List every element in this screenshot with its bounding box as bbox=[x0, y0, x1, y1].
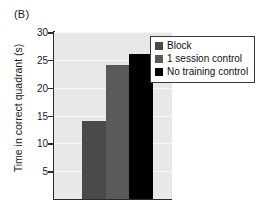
legend: Block1 session controlNo training contro… bbox=[150, 36, 255, 83]
gridline bbox=[54, 32, 172, 33]
y-axis-tick-mark bbox=[48, 171, 54, 173]
y-axis-tick-mark bbox=[48, 60, 54, 62]
y-axis-tick-label: 15 bbox=[8, 110, 48, 121]
y-axis-tick-mark bbox=[48, 88, 54, 90]
bar bbox=[106, 65, 130, 199]
y-axis-tick-label: 25 bbox=[8, 54, 48, 65]
y-axis-tick-label: 5 bbox=[8, 166, 48, 177]
y-axis-tick-labels: 51015202530 bbox=[6, 0, 48, 213]
legend-item: 1 session control bbox=[155, 53, 250, 65]
bar bbox=[129, 54, 153, 199]
y-axis-tick-label: 20 bbox=[8, 82, 48, 93]
bar bbox=[82, 121, 106, 199]
y-axis-tick-label: 10 bbox=[8, 138, 48, 149]
figure-panel-b: (B) Time in correct quadrant (s) 5101520… bbox=[0, 0, 266, 213]
y-axis-tick-mark bbox=[48, 32, 54, 34]
legend-swatch-icon bbox=[155, 42, 163, 50]
legend-item: Block bbox=[155, 40, 250, 52]
legend-swatch-icon bbox=[155, 55, 163, 63]
legend-label: 1 session control bbox=[167, 53, 242, 65]
legend-label: No training control bbox=[167, 66, 248, 78]
y-axis-tick-mark bbox=[48, 116, 54, 118]
legend-swatch-icon bbox=[155, 68, 163, 76]
legend-item: No training control bbox=[155, 66, 250, 78]
y-axis-tick-mark bbox=[48, 143, 54, 145]
legend-label: Block bbox=[167, 40, 191, 52]
y-axis-tick-label: 30 bbox=[8, 27, 48, 38]
